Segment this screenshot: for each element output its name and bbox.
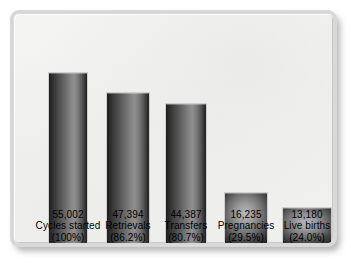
bar-value-retrievals: 47,394 (105, 209, 150, 221)
bar-value-cycles-started: 55,002 (36, 209, 101, 221)
bar-chart-plot-area: 55,002 Cycles started (100%) 47,394 Retr… (10, 10, 337, 247)
bar-category-pregnancies: Pregnancies (218, 220, 275, 232)
bar-value-live-births: 13,180 (284, 209, 331, 221)
bar-label-transfers: 44,387 Transfers (80.7%) (165, 209, 208, 244)
bar-label-live-births: 13,180 Live births (24.0%) (284, 209, 331, 244)
bar-label-cycles-started: 55,002 Cycles started (100%) (36, 209, 101, 244)
bar-value-pregnancies: 16,235 (218, 209, 275, 221)
bar-percent-retrievals: (86.2%) (105, 232, 150, 244)
bar-percent-live-births: (24.0%) (284, 232, 331, 244)
bar-percent-cycles-started: (100%) (36, 232, 101, 244)
bar-category-cycles-started: Cycles started (36, 220, 101, 232)
bar-percent-transfers: (80.7%) (165, 232, 208, 244)
bar-category-transfers: Transfers (165, 220, 208, 232)
bar-category-live-births: Live births (284, 220, 331, 232)
bar-label-retrievals: 47,394 Retrievals (86.2%) (105, 209, 150, 244)
bar-percent-pregnancies: (29.5%) (218, 232, 275, 244)
bar-value-transfers: 44,387 (165, 209, 208, 221)
bar-label-pregnancies: 16,235 Pregnancies (29.5%) (218, 209, 275, 244)
chart-frame: 55,002 Cycles started (100%) 47,394 Retr… (10, 10, 337, 247)
bar-category-retrievals: Retrievals (105, 220, 150, 232)
